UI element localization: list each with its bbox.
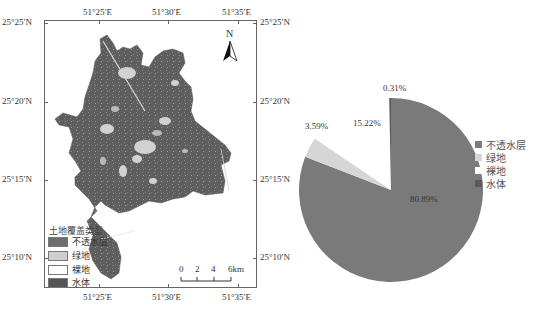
- top-axis-label-3: 51°35′E: [222, 7, 251, 17]
- pie-label-bare: 15.22%: [353, 118, 381, 128]
- map-legend-item-bare: 裸地: [48, 264, 90, 275]
- legend-label-green: 绿地: [72, 249, 90, 262]
- bottom-axis-label-3: 51°35′E: [222, 292, 251, 302]
- bottom-axis-label-1: 51°25′E: [83, 292, 112, 302]
- top-axis-label-1: 51°25′E: [83, 7, 112, 17]
- pie-legend-swatch-bare: [475, 167, 482, 174]
- north-arrow-icon: [222, 41, 238, 63]
- north-arrow: N: [222, 30, 238, 62]
- legend-swatch-impervious: [48, 237, 68, 247]
- right-axis-label-2: 25°20′N: [260, 96, 290, 106]
- scale-tick-4: 4: [211, 264, 216, 274]
- scale-bar: 0 2 4 6km: [176, 264, 246, 286]
- pie-legend-swatch-impervious: [475, 141, 482, 148]
- top-axis-label-2: 51°30′E: [152, 7, 181, 17]
- bottom-axis-label-2: 51°30′E: [152, 292, 181, 302]
- legend-label-water: 水体: [72, 276, 90, 289]
- left-axis-label-2: 25°20′N: [2, 96, 32, 106]
- legend-label-impervious: 不透水层: [72, 235, 108, 248]
- legend-label-bare: 裸地: [72, 263, 90, 276]
- pie-legend-label-water: 水体: [486, 176, 506, 191]
- pie-label-impervious: 80.89%: [410, 194, 438, 204]
- pie-label-green: 3.59%: [305, 121, 328, 131]
- left-axis-label-1: 25°25′N: [2, 17, 32, 27]
- pie-legend: 不透水层 绿地 裸地 水体: [475, 138, 526, 190]
- right-axis-label-3: 25°15′N: [260, 174, 290, 184]
- pie-legend-swatch-water: [475, 180, 482, 187]
- right-axis-label-4: 25°10′N: [260, 252, 290, 262]
- scale-tick-2: 2: [195, 264, 200, 274]
- pie-legend-swatch-green: [475, 154, 482, 161]
- legend-swatch-water: [48, 278, 68, 288]
- left-axis-label-3: 25°15′N: [2, 174, 32, 184]
- north-label: N: [226, 28, 233, 39]
- map-legend-item-green: 绿地: [48, 250, 90, 261]
- map-legend-item-impervious: 不透水层: [48, 236, 108, 247]
- legend-swatch-green: [48, 251, 68, 261]
- right-axis-label-1: 25°25′N: [260, 17, 290, 27]
- scale-bar-line: [176, 275, 246, 285]
- scale-tick-0: 0: [179, 264, 184, 274]
- left-axis-label-4: 25°10′N: [2, 252, 32, 262]
- scale-tick-6km: 6km: [228, 264, 244, 274]
- map-legend-item-water: 水体: [48, 277, 90, 288]
- pie-legend-item-water: 水体: [475, 177, 526, 190]
- legend-swatch-bare: [48, 265, 68, 275]
- pie-label-water: 0.31%: [383, 83, 406, 93]
